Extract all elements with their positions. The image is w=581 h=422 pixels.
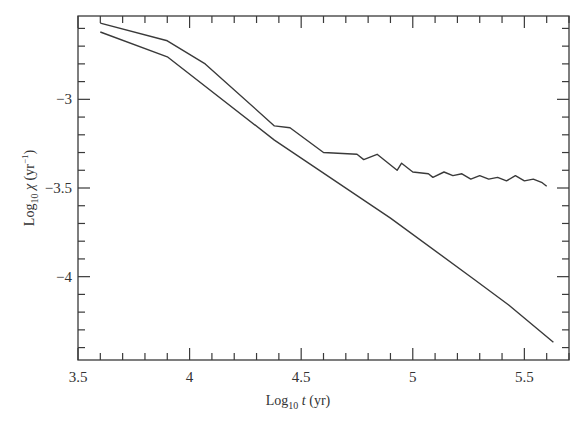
- x-tick-label: 5: [409, 369, 417, 385]
- y-tick-label: −3: [56, 91, 72, 107]
- x-tick-label: 4: [186, 369, 194, 385]
- y-tick-labels: −3−3.5−4: [45, 91, 73, 284]
- x-tick-label: 4.5: [292, 369, 311, 385]
- y-axis-label: Log10 χ (yr−1): [20, 150, 40, 227]
- series-line-upper: [100, 23, 546, 186]
- data-series: [100, 23, 553, 342]
- y-tick-label: −4: [56, 269, 72, 285]
- line-chart: 3.544.555.5 −3−3.5−4 Log10 t (yr) Log10 …: [0, 0, 581, 422]
- y-tick-label: −3.5: [45, 180, 72, 196]
- x-axis-label: Log10 t (yr): [266, 393, 331, 411]
- axes-box: [78, 16, 569, 360]
- plot-frame: [78, 16, 569, 360]
- axis-ticks: [78, 16, 569, 360]
- x-tick-label: 5.5: [515, 369, 534, 385]
- x-tick-labels: 3.544.555.5: [69, 369, 534, 385]
- series-line-lower: [100, 32, 553, 342]
- x-tick-label: 3.5: [69, 369, 88, 385]
